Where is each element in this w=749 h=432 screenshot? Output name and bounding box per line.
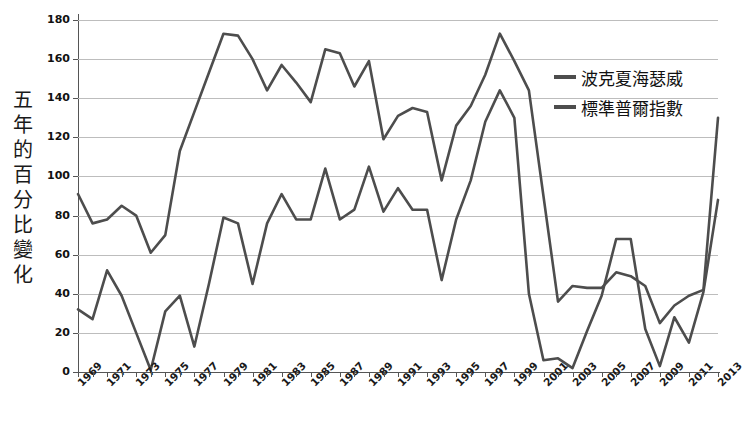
y-axis-tick-label: 100 <box>36 169 70 182</box>
x-axis-tick-mark <box>354 372 355 377</box>
y-axis-title-char: 分 <box>6 188 40 213</box>
y-axis-title-char: 五 <box>6 88 40 113</box>
x-axis-tick-mark <box>674 372 675 377</box>
y-axis-tick-label: 140 <box>36 91 70 104</box>
x-axis-tick-mark <box>529 372 530 377</box>
x-axis-tick-mark <box>500 372 501 377</box>
x-axis-tick-mark <box>267 372 268 377</box>
x-axis-tick-mark <box>209 372 210 377</box>
legend-label-berkshire: 波克夏海瑟威 <box>581 65 683 90</box>
y-axis-title-char: 化 <box>6 263 40 288</box>
x-axis-tick-mark <box>384 372 385 377</box>
x-axis-tick-mark <box>616 372 617 377</box>
y-axis-title-char: 的 <box>6 138 40 163</box>
y-axis-tick-label: 60 <box>36 248 70 261</box>
x-axis-tick-mark <box>645 372 646 377</box>
legend-swatch-icon <box>554 105 576 109</box>
y-axis-tick-label: 160 <box>36 52 70 65</box>
y-axis-tick-label: 80 <box>36 209 70 222</box>
legend-label-sp500: 標準普爾指數 <box>581 95 683 120</box>
chart-container: 五年的百分比變化 020406080100120140160180 196919… <box>0 0 749 432</box>
x-axis-tick-mark <box>413 372 414 377</box>
x-axis-tick-mark <box>151 372 152 377</box>
y-axis-title-char: 變 <box>6 238 40 263</box>
y-axis-title-char: 百 <box>6 163 40 188</box>
x-axis-tick-mark <box>471 372 472 377</box>
x-axis-tick-mark <box>296 372 297 377</box>
legend-item-sp500: 標準普爾指數 <box>554 92 734 122</box>
x-axis-tick-mark <box>587 372 588 377</box>
x-axis-tick-mark <box>122 372 123 377</box>
y-axis-title-char: 比 <box>6 213 40 238</box>
chart-legend: 波克夏海瑟威 標準普爾指數 <box>554 62 734 122</box>
y-axis-tick-label: 0 <box>36 365 70 378</box>
series-line-sp500 <box>78 90 718 370</box>
legend-item-berkshire: 波克夏海瑟威 <box>554 62 734 92</box>
y-axis-tick-label: 180 <box>36 13 70 26</box>
x-axis-tick-mark <box>558 372 559 377</box>
y-axis-tick-label: 120 <box>36 130 70 143</box>
y-axis-title-char: 年 <box>6 113 40 138</box>
x-axis-tick-mark <box>704 372 705 377</box>
x-axis-tick-mark <box>93 372 94 377</box>
x-axis-tick-mark <box>442 372 443 377</box>
x-axis-tick-mark <box>238 372 239 377</box>
y-axis-tick-label: 20 <box>36 326 70 339</box>
x-axis-tick-label: 2013 <box>715 359 744 388</box>
y-axis-tick-label: 40 <box>36 287 70 300</box>
x-axis-tick-mark <box>180 372 181 377</box>
legend-swatch-icon <box>554 75 576 79</box>
y-axis-title: 五年的百分比變化 <box>6 88 40 288</box>
x-axis-tick-mark <box>325 372 326 377</box>
